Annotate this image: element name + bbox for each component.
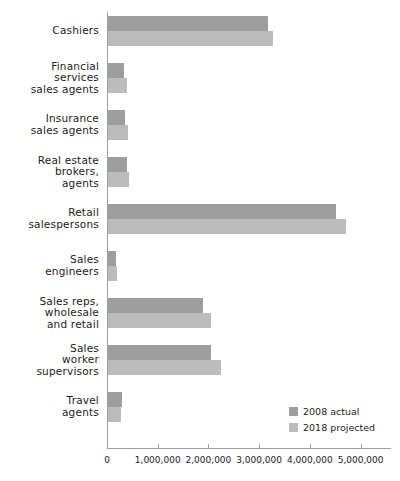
chart-category-row: Financialservicessales agents xyxy=(0,61,400,108)
bar-2018 xyxy=(108,360,221,375)
legend-label: 2008 actual xyxy=(303,405,359,418)
chart-category-row: Retailsalespersons xyxy=(0,202,400,249)
category-label-line: sales agents xyxy=(0,125,99,137)
category-label-line: supervisors xyxy=(0,366,99,378)
bar-2008 xyxy=(108,110,125,125)
bar-2008 xyxy=(108,345,211,360)
bar-2018 xyxy=(108,407,121,422)
category-label: Salesworkersupervisors xyxy=(0,343,99,378)
category-label: Insurancesales agents xyxy=(0,113,99,136)
x-axis-tick-mark xyxy=(259,444,260,449)
x-axis-tick-label: 3,000,000 xyxy=(236,455,282,465)
legend-swatch xyxy=(289,423,298,432)
bar-2018 xyxy=(108,78,127,93)
bar-2018 xyxy=(108,313,211,328)
legend-label: 2018 projected xyxy=(303,421,375,434)
category-label-line: engineers xyxy=(0,266,99,278)
bar-2008 xyxy=(108,392,122,407)
x-axis-line xyxy=(107,448,391,449)
category-label: Travelagents xyxy=(0,395,99,418)
category-label: Cashiers xyxy=(0,25,99,37)
category-label-line: salespersons xyxy=(0,219,99,231)
bar-2008 xyxy=(108,204,336,219)
x-axis-tick-label: 4,000,000 xyxy=(287,455,333,465)
bar-2008 xyxy=(108,298,203,313)
x-axis-tick-mark xyxy=(208,444,209,449)
category-label-line: and retail xyxy=(0,319,99,331)
bar-chart: CashiersFinancialservicessales agentsIns… xyxy=(0,0,400,481)
bar-2018 xyxy=(108,219,346,234)
chart-category-row: Salesengineers xyxy=(0,249,400,296)
chart-category-row: Real estatebrokers,agents xyxy=(0,155,400,202)
legend-swatch xyxy=(289,407,298,416)
bar-2018 xyxy=(108,172,129,187)
bar-2018 xyxy=(108,31,273,46)
chart-category-row: Sales reps,wholesaleand retail xyxy=(0,296,400,343)
x-axis-tick-mark xyxy=(361,444,362,449)
bar-2008 xyxy=(108,63,124,78)
x-axis-tick-label: 0 xyxy=(104,455,110,465)
category-label: Retailsalespersons xyxy=(0,207,99,230)
category-label: Salesengineers xyxy=(0,254,99,277)
bar-2018 xyxy=(108,266,117,281)
chart-category-row: Salesworkersupervisors xyxy=(0,343,400,390)
bar-2008 xyxy=(108,251,116,266)
category-label: Financialservicessales agents xyxy=(0,61,99,96)
bar-2008 xyxy=(108,16,268,31)
x-axis-tick-label: 1,000,000 xyxy=(135,455,181,465)
category-label-line: agents xyxy=(0,407,99,419)
category-label-line: Cashiers xyxy=(0,25,99,37)
category-label-line: sales agents xyxy=(0,84,99,96)
bar-2018 xyxy=(108,125,128,140)
chart-category-row: Cashiers xyxy=(0,14,400,61)
x-axis-tick-mark xyxy=(158,444,159,449)
category-label: Sales reps,wholesaleand retail xyxy=(0,296,99,331)
category-label: Real estatebrokers,agents xyxy=(0,155,99,190)
x-axis-tick-mark xyxy=(310,444,311,449)
x-axis-tick-label: 5,000,000 xyxy=(338,455,384,465)
category-label-line: agents xyxy=(0,178,99,190)
bar-2008 xyxy=(108,157,127,172)
chart-category-row: Insurancesales agents xyxy=(0,108,400,155)
x-axis-tick-label: 2,000,000 xyxy=(186,455,232,465)
